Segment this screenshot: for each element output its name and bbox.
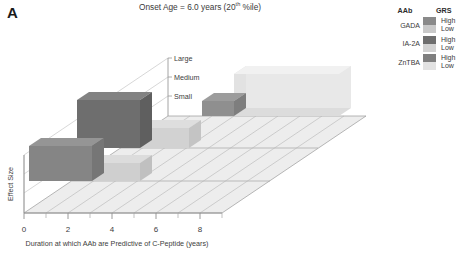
legend-level-gada-high: High — [441, 17, 455, 25]
legend-levels-ia2a: High Low — [438, 36, 455, 52]
legend-swatches-zntba — [423, 54, 438, 70]
legend-swatch-ia2a-low — [423, 44, 436, 52]
legend-level-ia2a-low: Low — [441, 44, 455, 52]
x-tick-label-0: 0 — [22, 225, 27, 234]
z-label-medium: Medium — [174, 73, 200, 82]
legend-aab-label-gada: GADA — [390, 22, 423, 29]
legend-level-zntba-high: High — [441, 54, 455, 62]
legend-header-grs: GRS — [435, 6, 460, 15]
legend-swatch-zntba-low — [423, 62, 436, 70]
legend-group-zntba: ZnTBA High Low — [390, 54, 464, 70]
legend-levels-zntba: High Low — [438, 54, 455, 70]
bar-gada-low — [234, 66, 351, 116]
x-axis-title: Duration at which AAb are Predictive of … — [26, 239, 209, 248]
legend-level-gada-low: Low — [441, 25, 455, 33]
legend-swatch-zntba-high — [423, 54, 436, 62]
legend-levels-gada: High Low — [438, 17, 455, 33]
x-tick-label-2: 2 — [66, 225, 71, 234]
legend-swatch-ia2a-high — [423, 36, 436, 44]
legend-swatches-gada — [423, 17, 438, 33]
y-axis-title: Effect Size — [6, 167, 15, 201]
legend-level-ia2a-high: High — [441, 36, 455, 44]
legend-header: AAb GRS — [390, 6, 464, 15]
x-tick-label-8: 8 — [198, 225, 203, 234]
x-axis-minor-ticks — [46, 213, 222, 218]
z-label-small: Small — [174, 92, 192, 101]
figure-panel-a: A Onset Age = 6.0 years (20th %ile) — [0, 0, 466, 268]
legend-aab-label-ia2a: IA-2A — [390, 40, 423, 47]
legend-swatches-ia2a — [423, 36, 438, 52]
z-axis-ticks — [168, 58, 172, 96]
x-axis-major-ticks — [24, 213, 200, 219]
legend-header-aab: AAb — [390, 6, 420, 15]
z-label-large: Large — [174, 54, 192, 63]
legend-level-zntba-low: Low — [441, 62, 455, 70]
bar-zntba-high — [29, 138, 104, 181]
legend-swatch-gada-high — [423, 17, 436, 25]
x-tick-label-4: 4 — [110, 225, 115, 234]
legend-group-ia2a: IA-2A High Low — [390, 36, 464, 52]
legend-group-gada: GADA High Low — [390, 17, 464, 33]
legend: AAb GRS GADA High Low IA-2A High Low — [390, 6, 464, 73]
x-tick-label-6: 6 — [154, 225, 159, 234]
legend-swatch-gada-low — [423, 25, 436, 33]
legend-aab-label-zntba: ZnTBA — [390, 59, 423, 66]
